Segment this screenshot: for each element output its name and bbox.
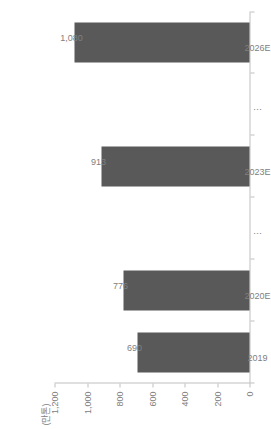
value-axis-tick-mark [120,383,121,387]
value-axis-tick-label: 1,000 [82,391,92,414]
category-axis-tick-label: 2026E [244,42,255,52]
bar-chart-figure: (만톤) 1,2001,0008006004002000 6907769131,… [33,0,256,429]
value-axis-tick-label: 800 [115,391,125,406]
value-axis-tick-label: 200 [212,391,222,406]
category-axis-tick-mark [251,72,255,73]
value-axis-line [55,382,251,383]
value-axis-tick-mark [152,383,153,387]
category-axis: 20192020E⋯2023E⋯2026E [251,11,256,383]
value-axis-tick-label: 0 [245,391,255,396]
value-axis-tick-mark [55,383,56,387]
value-axis-tick-mark [217,383,218,387]
bar: 690 [137,332,249,372]
category-axis-tick-mark [251,11,255,12]
value-axis-tick-mark [250,383,251,387]
bar: 1,080 [74,22,250,62]
category-axis-tick-mark [251,258,255,259]
chart-stage: (만톤) 1,2001,0008006004002000 6907769131,… [33,0,256,429]
category-axis-tick-mark [251,134,255,135]
value-axis: 1,2001,0008006004002000 [55,383,251,429]
category-axis-tick-label: 2019 [247,352,255,362]
category-axis-tick-mark [251,196,255,197]
bar-value-label: 776 [113,280,128,290]
category-axis-tick-label: 2020E [244,290,255,300]
category-axis-tick-mark [251,320,255,321]
bar-value-label: 690 [127,342,142,352]
bar: 913 [101,146,249,186]
category-axis-tick-label: 2023E [244,166,255,176]
value-axis-tick-mark [185,383,186,387]
category-axis-tick-label: ⋯ [253,228,256,238]
bar-value-label: 1,080 [60,32,83,42]
value-axis-tick-mark [87,383,88,387]
value-axis-tick-label: 1,200 [50,391,60,414]
bar: 776 [123,270,249,310]
value-axis-tick-label: 600 [147,391,157,406]
plot-area: 6907769131,080 [55,11,251,383]
category-axis-tick-label: ⋯ [253,104,256,114]
bar-value-label: 913 [91,156,106,166]
value-axis-tick-label: 400 [180,391,190,406]
category-axis-tick-mark [251,382,255,383]
